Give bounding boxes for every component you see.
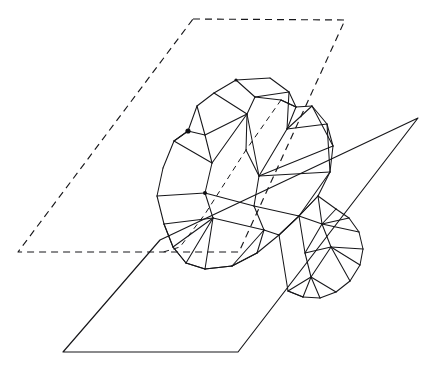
polyhedron-plane-intersection-diagram xyxy=(0,0,431,367)
polyhedron-marked-vertex xyxy=(203,191,207,195)
polyhedron-marked-vertex xyxy=(185,128,190,133)
diagram-background xyxy=(0,0,431,367)
polyhedron-marked-vertex xyxy=(234,78,237,81)
figure-canvas xyxy=(0,0,431,367)
